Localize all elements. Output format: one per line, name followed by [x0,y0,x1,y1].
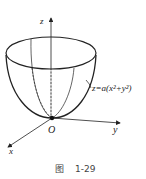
x-axis-label: x [9,147,13,156]
y-axis [52,118,120,123]
surface-equation: z=a(x²+y²) [92,84,132,93]
caption-number: 1-29 [75,165,95,174]
meridian-back [32,68,52,118]
meridian-front [31,39,52,118]
z-axis-label: z [40,17,44,26]
y-axis-label: y [113,125,117,135]
origin-label: O [48,125,55,135]
caption-prefix: 图 [55,165,64,174]
paraboloid-figure: z O y x z=a(x²+y²) 图 1-29 [0,0,146,179]
meridian-right [52,68,74,118]
origin-point [50,116,54,120]
x-axis [8,118,52,147]
